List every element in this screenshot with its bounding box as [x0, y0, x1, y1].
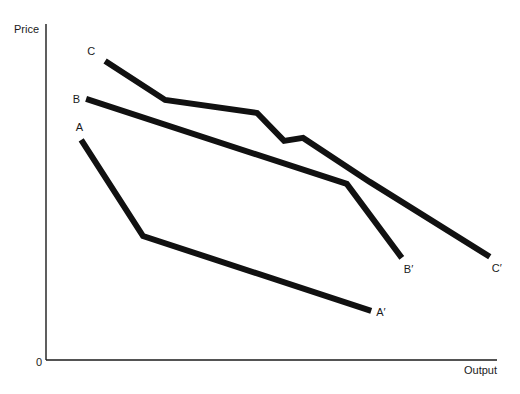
- label-a-start: A: [76, 121, 84, 133]
- label-b-start: B: [73, 93, 80, 105]
- curve-a: [81, 140, 371, 311]
- label-a-end: A′: [376, 306, 385, 318]
- label-c-start: C: [87, 45, 95, 57]
- x-axis-label: Output: [464, 364, 497, 376]
- curve-c: [105, 61, 490, 257]
- series-a: AA′: [76, 121, 386, 318]
- curve-b: [86, 99, 402, 258]
- origin-label: 0: [36, 356, 42, 368]
- label-c-end: C′: [492, 262, 502, 274]
- label-b-end: B′: [404, 263, 413, 275]
- y-axis-label: Price: [14, 23, 39, 35]
- series-b: BB′: [73, 93, 413, 275]
- chart: Price Output 0 AA′BB′CC′: [0, 0, 520, 394]
- series-layer: AA′BB′CC′: [73, 45, 502, 318]
